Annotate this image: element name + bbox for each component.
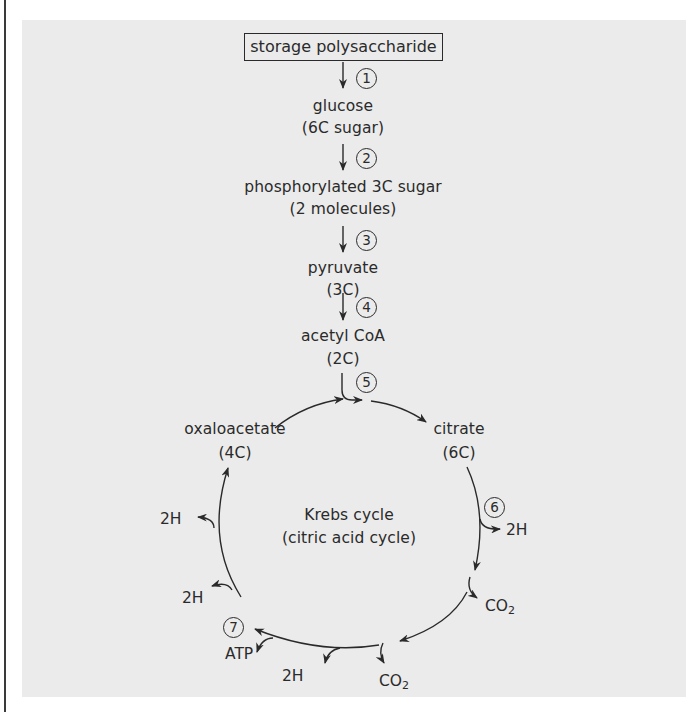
output-atp: ATP <box>225 645 253 663</box>
glucose-detail: (6C sugar) <box>302 119 384 137</box>
pyruvate-label: pyruvate <box>308 259 378 277</box>
phosphorylated-sugar-detail: (2 molecules) <box>290 200 397 218</box>
output-co2-bottom: CO2 <box>379 672 409 695</box>
oxaloacetate-label: oxaloacetate <box>184 420 285 438</box>
storage-polysaccharide-box: storage polysaccharide <box>244 33 443 61</box>
phosphorylated-sugar-label: phosphorylated 3C sugar <box>244 178 442 196</box>
cycle-subtitle: (citric acid cycle) <box>282 529 416 547</box>
citrate-detail: (6C) <box>442 444 475 462</box>
output-2h-bottom: 2H <box>282 667 304 685</box>
citrate-label: citrate <box>433 420 484 438</box>
pyruvate-detail: (3C) <box>326 281 359 299</box>
step-1-badge: 1 <box>356 68 377 89</box>
step-7-badge: 7 <box>223 617 244 638</box>
oxaloacetate-detail: (4C) <box>218 444 251 462</box>
step-3-badge: 3 <box>356 230 377 251</box>
acetyl-coa-label: acetyl CoA <box>301 327 385 345</box>
output-2h-left-upper: 2H <box>160 510 182 528</box>
acetyl-coa-detail: (2C) <box>326 350 359 368</box>
cycle-title: Krebs cycle <box>304 506 394 524</box>
output-2h-left-lower: 2H <box>182 589 204 607</box>
output-2h-step6: 2H <box>506 521 528 539</box>
step-2-badge: 2 <box>356 148 377 169</box>
output-co2-right: CO2 <box>485 597 515 620</box>
step-6-badge: 6 <box>484 497 505 518</box>
step-4-badge: 4 <box>356 297 377 318</box>
glucose-label: glucose <box>313 97 373 115</box>
step-5-badge: 5 <box>356 372 377 393</box>
